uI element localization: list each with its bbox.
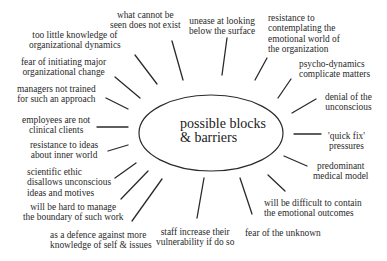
spoke-denial-unconscious — [292, 99, 316, 113]
label-quick-fix: 'quick fix' pressures — [328, 131, 365, 152]
spoke-psycho-dynamics — [278, 79, 291, 98]
center-line-1: possible blocks — [180, 116, 266, 131]
spoke-unease-below-surface — [222, 38, 227, 75]
center-line-2: & barriers — [180, 130, 237, 145]
label-what-cannot-be-seen: what cannot be seen does not exist — [110, 10, 181, 31]
spoke-fear-unknown — [240, 178, 252, 214]
label-medical-model: predominant medical model — [313, 161, 368, 182]
spoke-too-little-knowledge — [135, 55, 157, 84]
label-staff-vulnerability: staff increase their vulnerability if do… — [156, 227, 234, 248]
label-fear-unknown: fear of the unknown — [245, 228, 321, 238]
label-unease-below-surface: unease at looking below the surface — [189, 16, 255, 37]
label-managers-not-trained: managers not trained for such an approac… — [17, 84, 96, 105]
label-defence-knowledge: as a defence against more knowledge of s… — [50, 230, 152, 251]
spoke-staff-vulnerability — [197, 178, 204, 218]
spoke-what-cannot-be-seen — [172, 41, 183, 80]
spoke-emotional-outcomes — [268, 175, 285, 191]
mind-map-diagram: possible blocks & barriers what cannot b… — [0, 0, 387, 261]
label-denial-unconscious: denial of the unconscious — [325, 92, 372, 113]
label-fear-initiating-change: fear of initiating major organizational … — [21, 57, 106, 78]
label-manage-boundary: will be hard to manage the boundary of s… — [23, 202, 124, 223]
label-resistance-emotional-world: resistance to contemplating the emotiona… — [268, 13, 340, 55]
spoke-fear-initiating-change — [115, 77, 140, 98]
label-too-little-knowledge: too little knowledge of organizational d… — [29, 30, 121, 51]
label-resistance-inner-world: resistance to ideas about inner world — [30, 140, 98, 161]
spoke-medical-model — [284, 156, 307, 166]
label-emotional-outcomes: will be difficult to contain the emotion… — [264, 198, 362, 219]
spoke-resistance-emotional-world — [255, 58, 267, 80]
center-topic: possible blocks & barriers — [180, 117, 266, 145]
label-employees-not-clients: employees are not clinical clients — [22, 115, 90, 136]
label-scientific-ethic: scientific ethic disallows unconscious i… — [27, 167, 111, 198]
spoke-scientific-ethic — [115, 163, 136, 178]
spoke-managers-not-trained — [106, 98, 128, 109]
spoke-defence-knowledge — [132, 179, 162, 221]
spoke-resistance-inner-world — [108, 145, 128, 151]
spoke-manage-boundary — [121, 171, 148, 199]
label-psycho-dynamics: psycho-dynamics complicate matters — [299, 59, 370, 80]
